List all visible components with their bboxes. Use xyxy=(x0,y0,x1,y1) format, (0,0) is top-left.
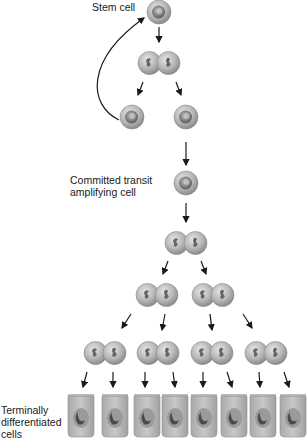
arrow xyxy=(210,314,212,330)
dividing-transit-cell-gen3 xyxy=(137,342,179,365)
committed-label-line1: Committed transit xyxy=(70,174,152,186)
stem-cell-label: Stem cell xyxy=(92,1,135,13)
arrow xyxy=(162,314,165,330)
self-renewal-arrow xyxy=(97,18,144,120)
arrow-right xyxy=(201,261,206,274)
arrows-to-terminal xyxy=(83,372,289,387)
arrow xyxy=(122,314,131,328)
daughter-cell-committed xyxy=(174,105,198,129)
terminally-differentiated-cells xyxy=(68,394,306,437)
dividing-transit-cell-gen2 xyxy=(136,284,178,307)
terminal-cells-label: Terminally differentiated cells xyxy=(1,404,62,440)
dividing-stem-cell xyxy=(138,52,180,75)
dividing-transit-cell-gen2 xyxy=(192,284,234,307)
committed-label-line2: amplifying cell xyxy=(70,186,152,198)
arrow-left xyxy=(163,261,168,274)
dividing-transit-cell-gen3 xyxy=(191,342,233,365)
arrow-left xyxy=(138,82,143,95)
stem-cell-lineage-diagram xyxy=(0,0,307,445)
committed-transit-amplifying-cell xyxy=(174,171,198,195)
arrow xyxy=(243,314,252,328)
arrow-right xyxy=(176,82,181,95)
daughter-cell-self-renewing xyxy=(120,105,144,129)
stem-cell xyxy=(147,0,171,24)
dividing-transit-cell xyxy=(165,232,207,255)
dividing-transit-cell-gen3 xyxy=(84,342,126,365)
dividing-transit-cell-gen3 xyxy=(245,342,287,365)
terminal-label-line3: cells xyxy=(1,428,62,440)
terminal-label-line2: differentiated xyxy=(1,416,62,428)
terminal-label-line1: Terminally xyxy=(1,404,62,416)
committed-transit-label: Committed transit amplifying cell xyxy=(70,174,152,198)
